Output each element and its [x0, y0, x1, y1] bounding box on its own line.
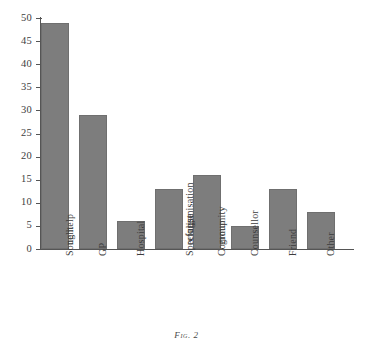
- x-axis-category-label: GP: [97, 245, 108, 256]
- x-axis-category-label: Friend: [287, 245, 298, 256]
- y-axis-tick-label: 25: [2, 128, 32, 139]
- y-axis-tick-mark: [36, 18, 42, 19]
- x-axis-category-label: Soughtno help: [64, 234, 75, 256]
- bar: [155, 189, 183, 249]
- x-axis-category-label: Hospital: [135, 245, 146, 256]
- x-axis-category-label-line: Specialist: [184, 245, 195, 256]
- x-axis-category-label-line: no help: [64, 234, 75, 245]
- x-axis-category-label: Counsellor: [249, 245, 260, 256]
- x-axis-category-label-line: Counsellor: [249, 245, 260, 256]
- y-axis-tick-label: 40: [2, 59, 32, 70]
- x-axis-category-label-line: group: [216, 234, 227, 245]
- y-axis-tick-label: 30: [2, 105, 32, 116]
- x-axis-line: [40, 249, 354, 250]
- x-axis-category-label-line: refugee: [184, 234, 195, 245]
- y-axis-tick-label: 10: [2, 197, 32, 208]
- x-axis-category-label-line: GP: [97, 245, 108, 256]
- y-axis-tick-label: 20: [2, 151, 32, 162]
- x-axis-category-label-line: organisation: [184, 223, 195, 234]
- x-axis-category-label-line: Friend: [287, 245, 298, 256]
- y-axis-tick-label: 50: [2, 13, 32, 24]
- x-axis-category-label-line: Other: [325, 245, 336, 256]
- x-axis-category-label-line: Hospital: [135, 245, 146, 256]
- x-axis-category-label: Other: [325, 245, 336, 256]
- plot-area: 05101520253035404550 Soughtno helpGPHosp…: [0, 0, 373, 348]
- bar: [79, 115, 107, 249]
- y-axis-tick-label: 5: [2, 220, 32, 231]
- y-axis-tick-label: 45: [2, 36, 32, 47]
- y-axis-tick-label: 15: [2, 174, 32, 185]
- y-axis-tick-mark: [36, 249, 42, 250]
- x-axis-category-label-line: Sought: [64, 245, 75, 256]
- y-axis-tick-label: 35: [2, 82, 32, 93]
- x-axis-category-label: Specialistrefugeeorganisation: [184, 223, 195, 256]
- figure-bar-chart: 05101520253035404550 Soughtno helpGPHosp…: [0, 0, 373, 348]
- x-axis-category-label-line: Community: [216, 245, 227, 256]
- y-axis-tick-label: 0: [2, 244, 32, 255]
- figure-caption: Fig. 2: [0, 330, 373, 340]
- x-axis-category-label: Communitygroup: [216, 234, 227, 256]
